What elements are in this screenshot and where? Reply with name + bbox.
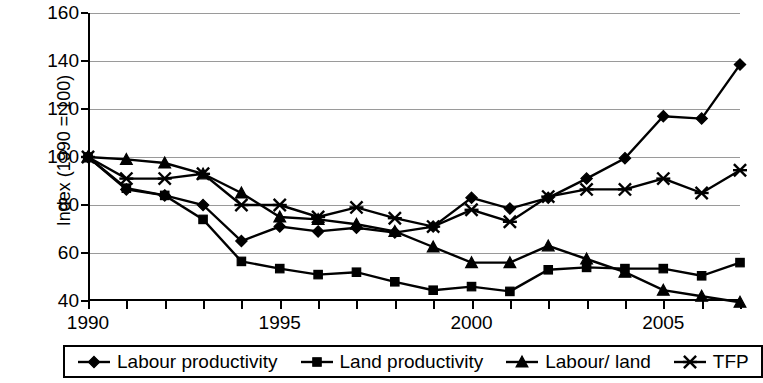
- x-tick-label: 1990: [67, 312, 109, 334]
- y-tick-mark: [81, 60, 88, 62]
- diamond-marker: [581, 173, 592, 184]
- cross-star-marker: [349, 201, 363, 213]
- square-marker: [391, 278, 399, 286]
- series-diamond: [82, 59, 745, 247]
- diamond-marker: [88, 356, 99, 367]
- cross-star-marker: [119, 173, 133, 185]
- cross-star-marker: [580, 183, 594, 195]
- square-marker: [736, 258, 744, 266]
- diamond-marker: [504, 203, 515, 214]
- square-marker: [122, 184, 130, 192]
- cross-star-marker: [695, 187, 709, 199]
- y-tick-label: 60: [58, 242, 79, 264]
- x-tick-label: 2005: [642, 312, 684, 334]
- x-tick-mark: [433, 301, 435, 309]
- x-tick-mark: [88, 301, 90, 309]
- x-tick-mark: [165, 301, 167, 309]
- x-tick-label: 1995: [259, 312, 301, 334]
- square-marker: [697, 272, 705, 280]
- x-tick-mark: [472, 301, 474, 309]
- legend-item-label: Labour productivity: [117, 351, 278, 373]
- triangle-marker: [542, 240, 554, 251]
- x-tick-label: 2000: [450, 312, 492, 334]
- x-tick-mark: [702, 301, 704, 309]
- square-icon: [300, 353, 334, 371]
- y-tick-label: 80: [58, 194, 79, 216]
- x-tick-mark: [126, 301, 128, 309]
- square-marker: [659, 264, 667, 272]
- y-tick-label: 40: [58, 290, 79, 312]
- square-marker: [237, 257, 245, 265]
- x-tick-mark: [280, 301, 282, 309]
- cross-star-marker: [234, 199, 248, 211]
- square-marker: [467, 282, 475, 290]
- chart-legend: Labour productivityLand productivityLabo…: [63, 345, 763, 378]
- diamond-marker: [274, 221, 285, 232]
- square-marker: [429, 286, 437, 294]
- cross-star-icon: [673, 353, 707, 371]
- x-tick-mark: [625, 301, 627, 309]
- cross-star-marker: [465, 204, 479, 216]
- cross-star-marker: [733, 164, 747, 176]
- square-marker: [199, 215, 207, 223]
- cross-star-marker: [273, 199, 287, 211]
- series-cross-star: [81, 151, 747, 233]
- square-marker: [506, 287, 514, 295]
- cross-star-marker: [158, 173, 172, 185]
- y-tick-label: 120: [47, 98, 79, 120]
- x-tick-mark: [510, 301, 512, 309]
- y-tick-mark: [81, 204, 88, 206]
- square-marker: [161, 191, 169, 199]
- x-tick-mark: [203, 301, 205, 309]
- x-tick-mark: [663, 301, 665, 309]
- legend-item: Labour productivity: [77, 351, 278, 373]
- x-tick-mark: [356, 301, 358, 309]
- y-tick-mark: [81, 252, 88, 254]
- x-tick-mark: [587, 301, 589, 309]
- square-marker: [276, 264, 284, 272]
- x-tick-mark: [395, 301, 397, 309]
- legend-item-label: Land productivity: [340, 351, 484, 373]
- y-tick-mark: [81, 12, 88, 14]
- cross-star-marker: [503, 216, 517, 228]
- plot-area: 406080100120140160 1990199520002005: [88, 13, 740, 301]
- cross-star-marker: [388, 212, 402, 224]
- y-tick-label: 100: [47, 146, 79, 168]
- legend-item-label: TFP: [713, 351, 749, 373]
- x-tick-mark: [318, 301, 320, 309]
- cross-star-marker: [683, 355, 697, 367]
- square-marker: [314, 270, 322, 278]
- square-marker: [312, 357, 320, 365]
- y-tick-mark: [81, 108, 88, 110]
- y-tick-mark: [81, 300, 88, 302]
- cross-star-marker: [618, 183, 632, 195]
- legend-item-label: Labour/ land: [545, 351, 651, 373]
- series-line: [88, 65, 740, 241]
- cross-star-marker: [656, 173, 670, 185]
- diamond-icon: [77, 353, 111, 371]
- triangle-icon: [505, 353, 539, 371]
- y-tick-label: 140: [47, 50, 79, 72]
- series-square: [84, 153, 744, 296]
- x-tick-mark: [548, 301, 550, 309]
- diamond-marker: [312, 226, 323, 237]
- series-line: [88, 157, 740, 227]
- y-tick-label: 160: [47, 2, 79, 24]
- square-marker: [352, 268, 360, 276]
- legend-item: TFP: [673, 351, 749, 373]
- x-tick-mark: [241, 301, 243, 309]
- square-marker: [544, 266, 552, 274]
- triangle-marker: [236, 187, 248, 198]
- legend-item: Land productivity: [300, 351, 484, 373]
- series-layer: [88, 13, 740, 301]
- legend-item: Labour/ land: [505, 351, 651, 373]
